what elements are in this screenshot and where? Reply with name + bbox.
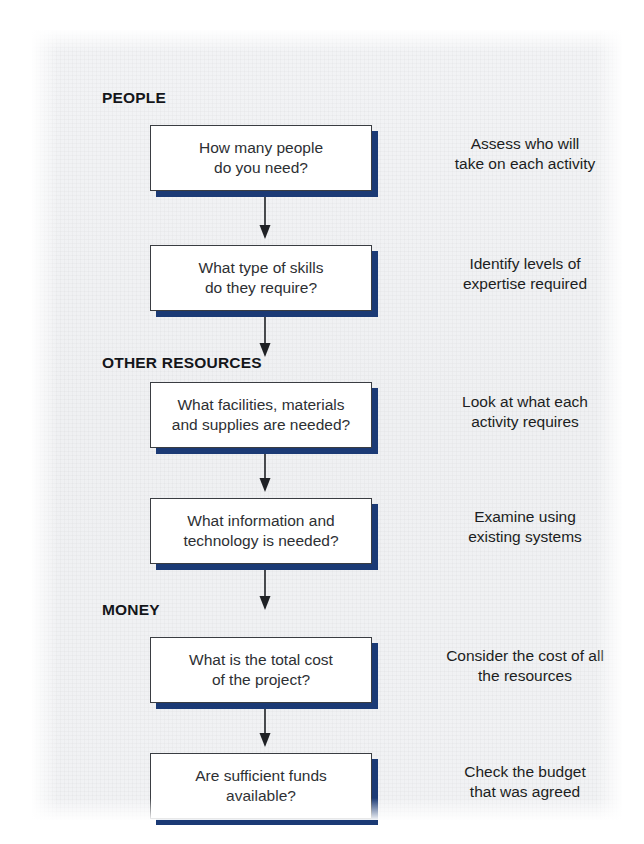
annotation-people-skills: Identify levels of expertise required <box>410 254 640 294</box>
annotation-sufficient-funds: Check the budget that was agreed <box>410 762 640 802</box>
arrow-1-icon <box>258 197 272 241</box>
node-people-count[interactable]: How many people do you need? <box>150 125 372 191</box>
node-label: What is the total cost of the project? <box>151 650 371 690</box>
flowchart: PEOPLE How many people do you need? Asse… <box>32 30 622 820</box>
node-label: What type of skills do they require? <box>151 258 371 298</box>
arrow-4-icon <box>258 570 272 612</box>
node-label: What facilities, materials and supplies … <box>151 395 371 435</box>
node-label: How many people do you need? <box>151 138 371 178</box>
annotation-information-technology: Examine using existing systems <box>410 507 640 547</box>
diagram-panel: PEOPLE How many people do you need? Asse… <box>32 30 622 820</box>
arrow-5-icon <box>258 709 272 749</box>
node-people-skills[interactable]: What type of skills do they require? <box>150 245 372 311</box>
annotation-facilities: Look at what each activity requires <box>410 392 640 432</box>
annotation-total-cost: Consider the cost of all the resources <box>410 646 640 686</box>
page-root: PEOPLE How many people do you need? Asse… <box>0 0 644 844</box>
section-heading-other-resources: OTHER RESOURCES <box>102 355 262 371</box>
node-total-cost[interactable]: What is the total cost of the project? <box>150 637 372 703</box>
node-facilities[interactable]: What facilities, materials and supplies … <box>150 382 372 448</box>
node-label: What information and technology is neede… <box>151 511 371 551</box>
annotation-people-count: Assess who will take on each activity <box>410 134 640 174</box>
section-heading-money: MONEY <box>102 602 160 618</box>
section-heading-people: PEOPLE <box>102 90 166 106</box>
arrow-3-icon <box>258 454 272 494</box>
arrow-2-icon <box>258 317 272 359</box>
node-information-technology[interactable]: What information and technology is neede… <box>150 498 372 564</box>
node-label: Are sufficient funds available? <box>151 766 371 806</box>
node-sufficient-funds[interactable]: Are sufficient funds available? <box>150 753 372 819</box>
